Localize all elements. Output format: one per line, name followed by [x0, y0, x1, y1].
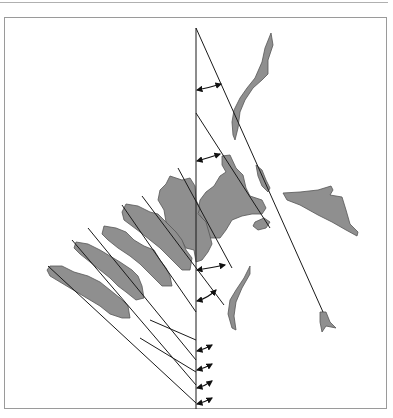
angle-arrow-2 [197, 154, 220, 161]
angle-arrow-8 [197, 398, 212, 404]
axis-line-10 [150, 320, 196, 340]
angle-arrow-3 [197, 265, 225, 270]
occiput-shape [232, 33, 273, 140]
angle-arrow-6 [197, 364, 212, 370]
angle-arrow-1 [197, 84, 221, 90]
angle-arrow-7 [197, 381, 212, 388]
angle-arrow-5 [197, 345, 212, 351]
spine-diagram [0, 0, 393, 418]
hyoid-shape [283, 186, 358, 236]
anterior-curve-shape [228, 266, 250, 330]
tip-shape [320, 312, 336, 332]
angle-arrow-4 [197, 290, 216, 301]
axis-line-9 [140, 338, 196, 372]
